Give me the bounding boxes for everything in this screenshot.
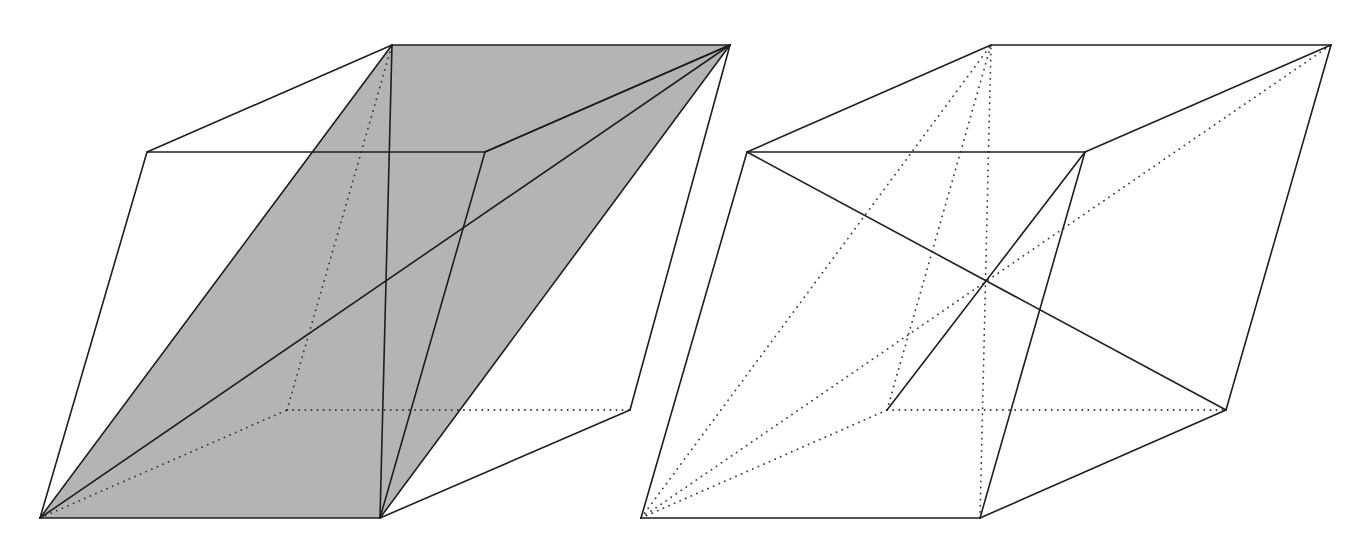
- right-parallelepiped-edge-FB: [980, 152, 1085, 518]
- right-parallelepiped-edge-EH: [747, 45, 991, 152]
- right-parallelepiped-edge-BC: [980, 410, 1226, 518]
- diagram-canvas: [0, 0, 1367, 555]
- right-parallelepiped-edge-AE: [641, 152, 747, 518]
- right-parallelepiped-diagonal-DF: [887, 152, 1085, 410]
- right-parallelepiped-hidden-edge-DH: [887, 45, 991, 410]
- parallelepipeds-diagram: [0, 0, 1367, 555]
- right-parallelepiped-hidden-edge-AD: [641, 410, 887, 518]
- right-parallelepiped-edge-FG: [1085, 45, 1331, 152]
- right-parallelepiped-edge-CG: [1226, 45, 1331, 410]
- right-parallelepiped-hidden-diagonal-AH: [641, 45, 991, 518]
